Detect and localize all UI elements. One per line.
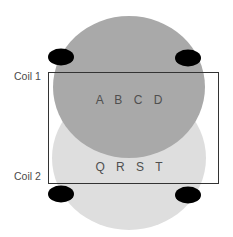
marker-top-left	[48, 49, 74, 66]
region-abcd-text: A B C D	[96, 93, 167, 107]
coil-2-label: Coil 2	[14, 170, 41, 182]
coil-diagram: Coil 1 Coil 2 A B C D Q R S T	[0, 0, 233, 237]
region-qrst-text: Q R S T	[95, 160, 166, 174]
marker-bottom-left	[48, 186, 74, 203]
marker-bottom-right	[175, 187, 201, 204]
diagram-canvas	[0, 0, 233, 237]
coil-1-label: Coil 1	[14, 70, 41, 82]
top-circle-abcd	[53, 16, 205, 158]
marker-top-right	[175, 50, 201, 67]
